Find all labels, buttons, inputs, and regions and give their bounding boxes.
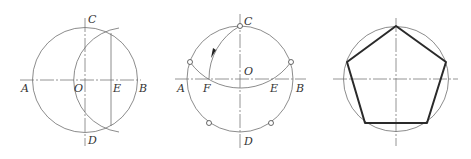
label-e: E [269,82,278,95]
figure-2: C O A F E B D [175,14,306,148]
label-f: F [202,82,211,95]
division-point-bottom-left [207,121,212,126]
regular-pentagon [347,26,446,123]
division-point-bottom-right [269,121,274,126]
figure-1: C A O E B D [20,13,147,147]
label-e: E [112,82,121,95]
division-point-left [188,60,193,65]
figure-3 [333,18,458,146]
label-a: A [176,82,185,95]
label-o: O [244,65,253,78]
label-a: A [20,82,29,95]
label-b: B [138,82,147,95]
label-d: D [243,135,253,148]
division-point-right [289,60,294,65]
label-c: C [88,13,97,26]
label-d: D [87,134,97,147]
label-o: O [74,82,83,95]
label-c: C [244,15,253,28]
label-b: B [295,82,304,95]
pentagon-construction-diagram: C A O E B D C O A F E B D [0,0,471,159]
division-point-top [238,24,243,29]
